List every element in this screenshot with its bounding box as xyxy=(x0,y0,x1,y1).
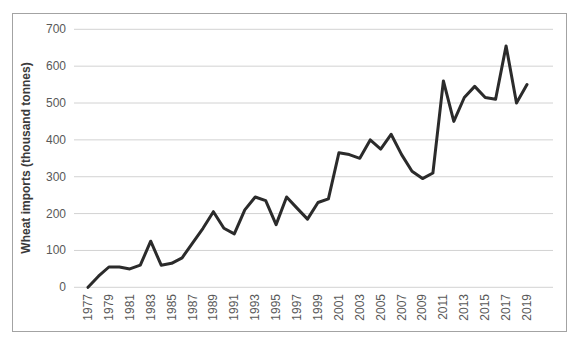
y-tick-label: 100 xyxy=(46,243,66,257)
x-tick-label: 1983 xyxy=(144,294,158,321)
x-tick-label: 1995 xyxy=(269,294,283,321)
x-tick-label: 1993 xyxy=(248,294,262,321)
x-tick-label: 2015 xyxy=(478,294,492,321)
y-tick-label: 200 xyxy=(46,207,66,221)
figure: 0100200300400500600700 19771979198119831… xyxy=(0,0,579,341)
x-tick-label: 2019 xyxy=(520,294,534,321)
x-tick-label: 1987 xyxy=(186,294,200,321)
y-tick-label: 300 xyxy=(46,170,66,184)
x-tick-label: 1999 xyxy=(311,294,325,321)
x-tick-label: 2011 xyxy=(436,294,450,320)
x-tick-label: 2013 xyxy=(457,294,471,321)
y-tick-label: 500 xyxy=(46,96,66,110)
y-axis-title: Wheat imports (thousand tonnes) xyxy=(19,62,33,253)
x-tick-label: 1997 xyxy=(290,294,304,321)
x-tick-label: 2003 xyxy=(353,294,367,321)
x-tick-label: 2005 xyxy=(374,294,388,321)
wheat-imports-line-chart: 0100200300400500600700 19771979198119831… xyxy=(0,0,579,341)
x-tick-label: 1977 xyxy=(81,294,95,321)
x-tick-label: 2007 xyxy=(395,294,409,321)
y-tick-label: 400 xyxy=(46,133,66,147)
x-tick-label: 2001 xyxy=(332,294,346,321)
x-tick-label: 1989 xyxy=(206,294,220,321)
x-tick-label: 1979 xyxy=(102,294,116,321)
x-tick-label: 2017 xyxy=(499,294,513,321)
y-tick-label: 600 xyxy=(46,59,66,73)
x-tick-label: 1985 xyxy=(165,294,179,321)
x-tick-label: 1991 xyxy=(227,294,241,321)
x-tick-label: 1981 xyxy=(123,294,137,321)
x-tick-label: 2009 xyxy=(415,294,429,321)
y-tick-label: 700 xyxy=(46,22,66,36)
y-tick-label: 0 xyxy=(59,280,66,294)
figure-border xyxy=(13,14,567,332)
